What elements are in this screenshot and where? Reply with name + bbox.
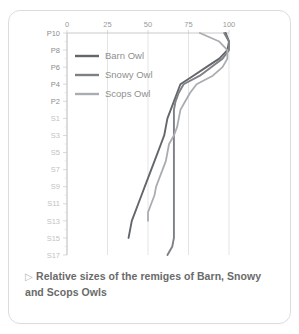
y-tick-label-S17: S17 (47, 251, 60, 260)
legend-label-snowy-owl: Snowy Owl (105, 69, 153, 80)
figure-card: 0255075100 P10P8P6P4P2S1S3S5S7S9S11S13S1… (8, 10, 291, 324)
y-tick-label-P2: P2 (51, 97, 60, 106)
chart-series-lines (129, 33, 229, 255)
y-tick-label-P4: P4 (51, 80, 60, 89)
chart-figure: 0255075100 P10P8P6P4P2S1S3S5S7S9S11S13S1… (9, 11, 292, 271)
y-tick-label-S3: S3 (51, 131, 60, 140)
x-tick-label-50: 50 (144, 20, 152, 29)
figure-caption: ▷ Relative sizes of the remiges of Barn,… (25, 269, 277, 299)
y-axis-ticks (63, 33, 67, 255)
y-tick-label-S7: S7 (51, 165, 60, 174)
legend-label-scops-owl: Scops Owl (105, 88, 150, 99)
x-tick-label-0: 0 (65, 20, 69, 29)
y-tick-label-S11: S11 (47, 199, 60, 208)
y-tick-label-P6: P6 (51, 63, 60, 72)
x-tick-label-25: 25 (103, 20, 111, 29)
y-tick-label-P8: P8 (51, 46, 60, 55)
y-axis-tick-labels: P10P8P6P4P2S1S3S5S7S9S11S13S15S17 (47, 29, 60, 260)
caption-text: Relative sizes of the remiges of Barn, S… (25, 270, 261, 298)
y-tick-label-S9: S9 (51, 182, 60, 191)
series-line-snowy-owl (167, 33, 229, 255)
x-tick-label-75: 75 (184, 20, 192, 29)
chart-legend: Barn OwlSnowy OwlScops Owl (75, 50, 153, 99)
y-tick-label-S15: S15 (47, 234, 60, 243)
y-tick-label-S13: S13 (47, 217, 60, 226)
series-line-barn-owl (129, 33, 229, 238)
y-tick-label-S5: S5 (51, 148, 60, 157)
y-tick-label-S1: S1 (51, 114, 60, 123)
legend-label-barn-owl: Barn Owl (105, 50, 144, 61)
x-tick-label-100: 100 (223, 20, 236, 29)
y-tick-label-P10: P10 (47, 29, 60, 38)
x-axis-ticks (67, 30, 229, 33)
relative-remige-sizes-line-chart: 0255075100 P10P8P6P4P2S1S3S5S7S9S11S13S1… (9, 11, 292, 271)
x-axis-tick-labels: 0255075100 (65, 20, 235, 29)
caption-marker-icon: ▷ (25, 271, 33, 282)
